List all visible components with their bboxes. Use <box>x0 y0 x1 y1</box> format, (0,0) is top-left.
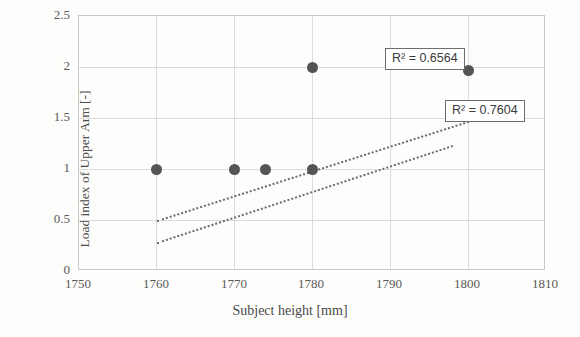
data-point <box>151 164 162 175</box>
x-tick-label-1770: 1770 <box>204 276 264 292</box>
gridline-horizontal <box>79 220 544 221</box>
x-tick-label-1790: 1790 <box>359 276 419 292</box>
gridline-vertical <box>156 16 157 269</box>
scatter-chart: Load index of Upper Arm [-] 0 0.5 1 1.5 … <box>0 0 580 337</box>
y-tick-label-1: 0.5 <box>38 211 70 227</box>
gridline-vertical <box>234 16 235 269</box>
x-axis-title: Subject height [mm] <box>0 303 580 319</box>
y-tick-label-2: 1 <box>38 160 70 176</box>
r-squared-text-upper: R² = 0.6564 <box>392 51 458 65</box>
trendline-lower <box>157 145 453 244</box>
gridline-vertical <box>312 16 313 269</box>
x-tick-label-1760: 1760 <box>126 276 186 292</box>
y-tick-label-5: 2.5 <box>38 7 70 23</box>
data-point <box>307 62 318 73</box>
plot-area <box>78 15 545 270</box>
data-point <box>260 164 271 175</box>
data-point <box>307 164 318 175</box>
x-tick-label-1780: 1780 <box>281 276 341 292</box>
r-squared-label-upper: R² = 0.6564 <box>385 48 465 70</box>
r-squared-text-lower: R² = 0.7604 <box>452 103 518 117</box>
y-tick-label-3: 1.5 <box>38 109 70 125</box>
gridline-vertical <box>468 16 469 269</box>
y-tick-label-4: 2 <box>38 58 70 74</box>
r-squared-label-lower: R² = 0.7604 <box>445 100 525 122</box>
x-tick-label-1810: 1810 <box>515 276 575 292</box>
x-tick-label-1750: 1750 <box>48 276 108 292</box>
x-tick-label-1800: 1800 <box>437 276 497 292</box>
data-point <box>229 164 240 175</box>
